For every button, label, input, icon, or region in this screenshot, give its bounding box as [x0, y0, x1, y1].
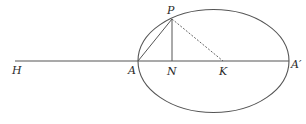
label-H: H — [11, 64, 22, 77]
dashed-P-K — [172, 19, 223, 61]
label-A-prime: A′ — [290, 58, 302, 71]
label-A: A — [127, 64, 136, 77]
label-N: N — [166, 65, 177, 78]
diagram-svg: H A N K A′ P — [0, 0, 306, 124]
chord-A-P — [138, 19, 172, 61]
label-K: K — [218, 65, 228, 78]
ellipse-diagram: H A N K A′ P — [0, 0, 306, 124]
label-P: P — [166, 4, 175, 17]
